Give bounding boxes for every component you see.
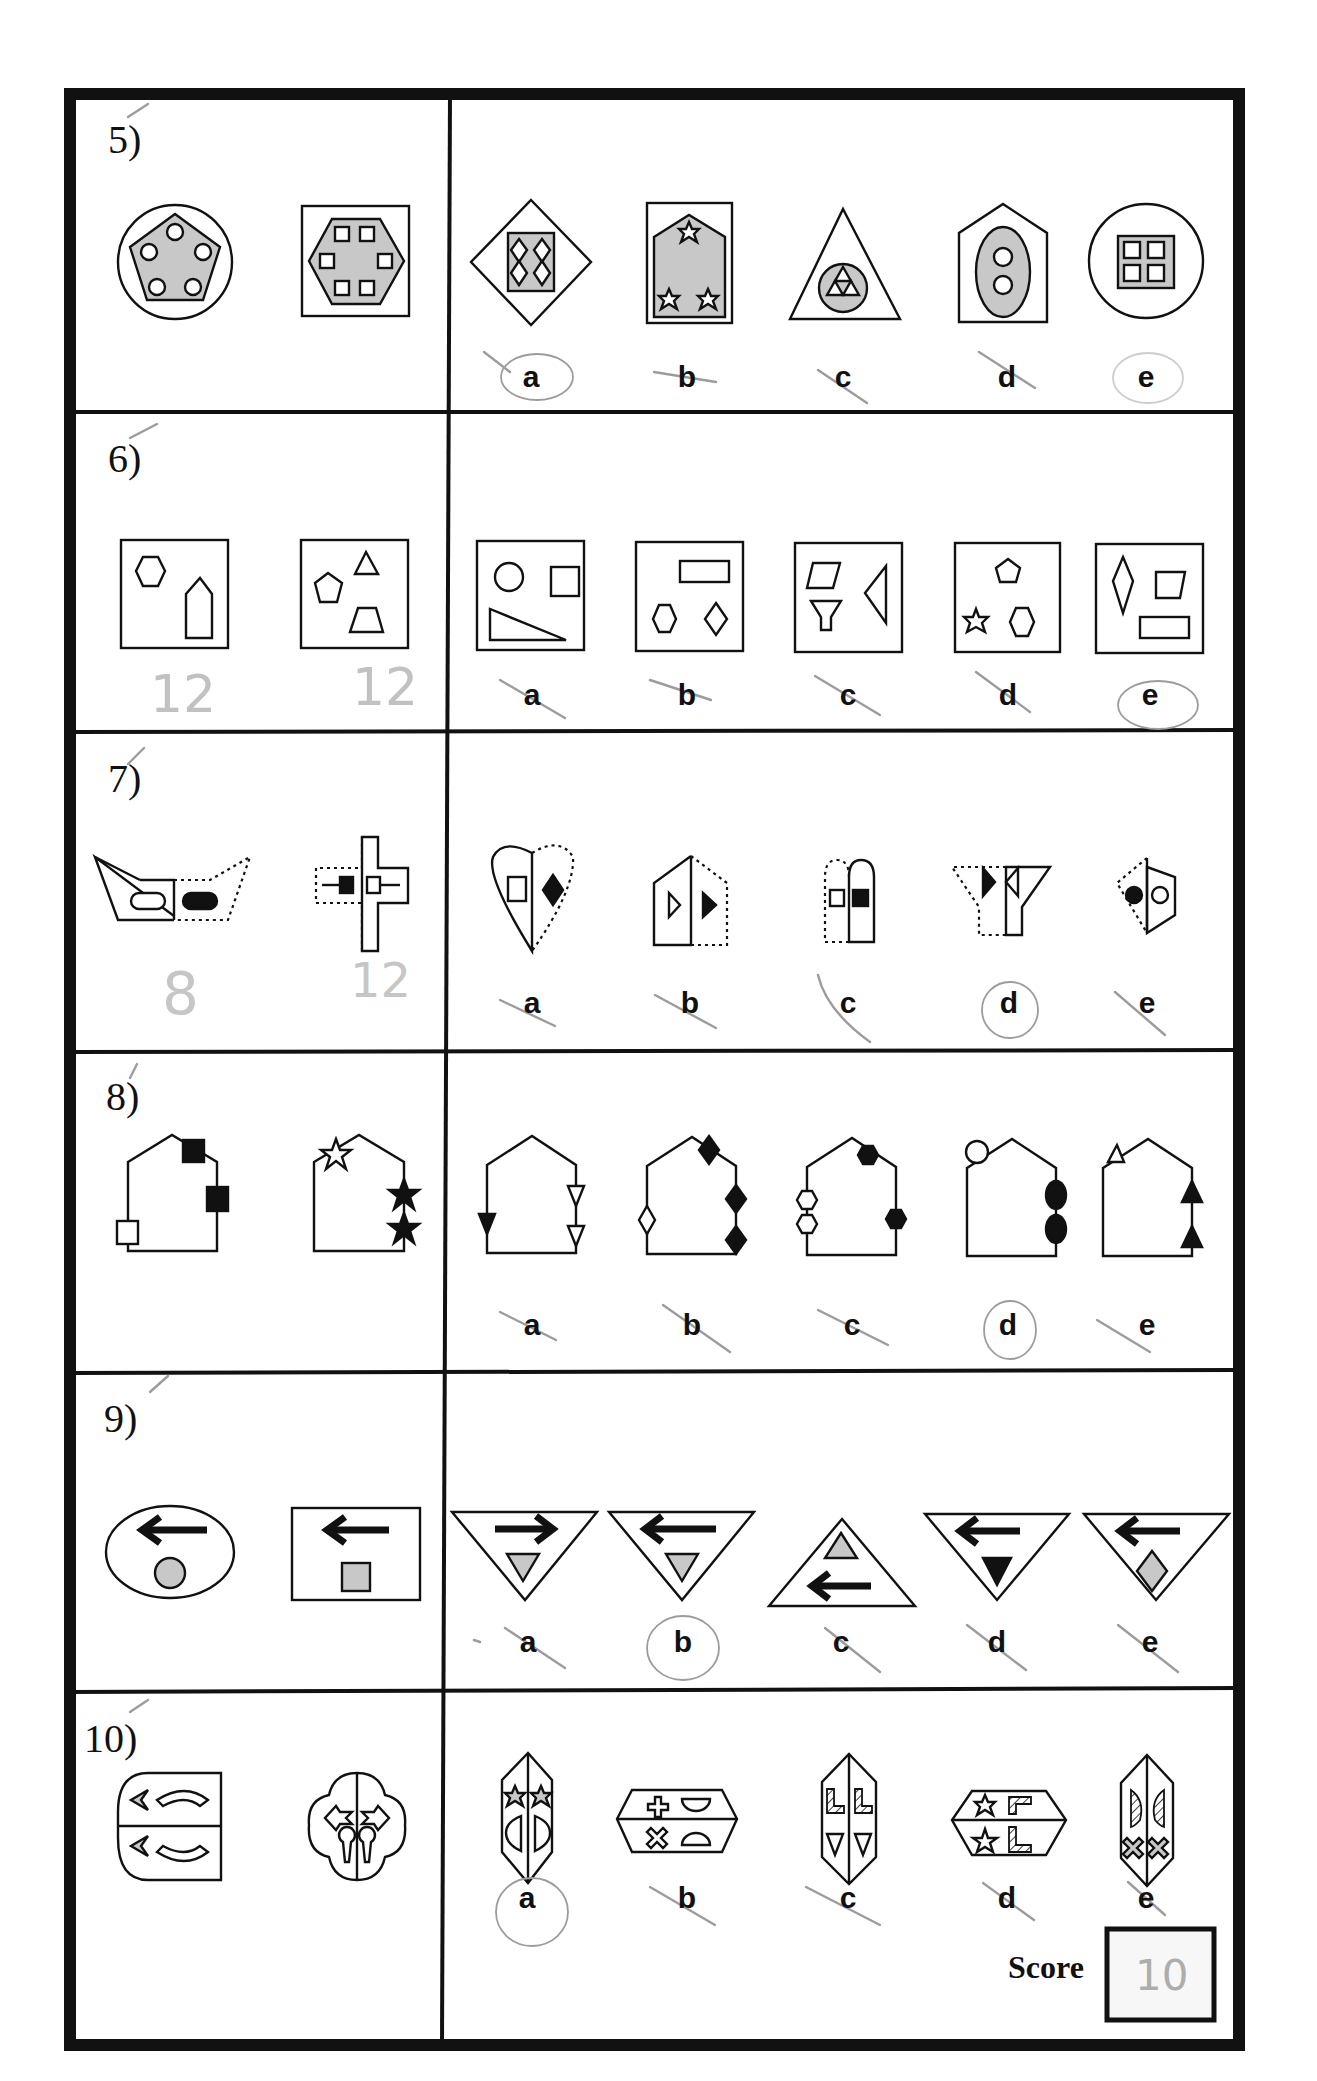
- option-e[interactable]: e: [1084, 1514, 1229, 1672]
- question-number: 6): [108, 436, 141, 481]
- option-b[interactable]: b: [639, 1136, 746, 1352]
- option-c[interactable]: c: [769, 1519, 915, 1672]
- example-figure-2: [309, 1773, 405, 1880]
- option-e[interactable]: e: [1089, 204, 1203, 403]
- option-e[interactable]: e: [1096, 544, 1203, 729]
- option-d[interactable]: d: [955, 543, 1060, 712]
- example-figure-1: [95, 857, 250, 920]
- question-number: 8): [106, 1074, 139, 1119]
- option-e[interactable]: e: [1121, 1755, 1173, 1915]
- option-letter: c: [833, 1625, 850, 1658]
- option-letter: b: [674, 1625, 692, 1658]
- example-figure-2: [302, 206, 409, 316]
- example-figure-1: [106, 1506, 234, 1598]
- option-b[interactable]: b: [636, 542, 743, 711]
- question-number: 10): [84, 1716, 137, 1761]
- question-number: 9): [104, 1396, 137, 1441]
- question-10: 10) a: [84, 1700, 1214, 2020]
- option-c[interactable]: c: [797, 1138, 906, 1345]
- option-letter: a: [524, 986, 541, 1019]
- score-area: Score 10: [1008, 1929, 1214, 2020]
- option-d[interactable]: d: [966, 1139, 1066, 1359]
- example-figure-1: [121, 540, 228, 648]
- example-figure-2: [314, 1135, 419, 1251]
- option-b[interactable]: b: [654, 856, 727, 1028]
- option-letter: e: [1142, 1625, 1159, 1658]
- worksheet: 5): [0, 0, 1317, 2081]
- option-d[interactable]: d: [925, 1514, 1069, 1670]
- option-letter: b: [678, 1881, 696, 1914]
- option-letter: d: [1000, 986, 1018, 1019]
- option-letter: a: [524, 1308, 541, 1341]
- question-number: 7): [108, 756, 141, 801]
- option-letter: b: [683, 1308, 701, 1341]
- option-letter: c: [835, 360, 852, 393]
- option-d[interactable]: d: [952, 1791, 1066, 1920]
- score-value: 10: [1135, 1951, 1188, 2000]
- option-c[interactable]: c: [795, 543, 902, 715]
- question-7: 7) 8 12 a: [95, 748, 1175, 1042]
- question-number: 5): [108, 117, 141, 162]
- option-letter: d: [999, 1308, 1017, 1341]
- hand-note: 12: [350, 952, 411, 1008]
- example-figure-2: [316, 837, 408, 951]
- option-letter: b: [678, 360, 696, 393]
- option-letter: c: [844, 1308, 861, 1341]
- option-a[interactable]: a: [452, 1512, 597, 1668]
- option-b[interactable]: b: [647, 203, 732, 393]
- question-8: 8) a b: [106, 1064, 1202, 1359]
- option-letter: c: [840, 1881, 857, 1914]
- option-letter: e: [1142, 678, 1159, 711]
- option-d[interactable]: d: [959, 204, 1047, 393]
- option-letter: d: [998, 1881, 1016, 1914]
- option-letter: e: [1138, 1881, 1155, 1914]
- option-a[interactable]: a: [479, 1136, 584, 1341]
- option-a[interactable]: a: [471, 200, 591, 400]
- option-letter: b: [681, 986, 699, 1019]
- worksheet-frame: [70, 94, 1239, 2045]
- option-e[interactable]: e: [1115, 858, 1175, 1035]
- option-letter: a: [520, 1625, 537, 1658]
- question-5: 5): [108, 104, 1203, 403]
- option-e[interactable]: e: [1097, 1139, 1202, 1352]
- option-b[interactable]: b: [617, 1790, 737, 1925]
- option-letter: e: [1138, 360, 1155, 393]
- option-letter: b: [678, 678, 696, 711]
- hand-note: 8: [162, 960, 199, 1028]
- option-c[interactable]: c: [818, 860, 874, 1042]
- example-figure-1: [118, 205, 232, 319]
- example-figure-2: [301, 540, 408, 648]
- hand-note: 12: [150, 664, 216, 724]
- option-letter: d: [988, 1625, 1006, 1658]
- option-letter: e: [1139, 986, 1156, 1019]
- example-figure-1: [118, 1773, 221, 1880]
- option-letter: e: [1139, 1308, 1156, 1341]
- option-letter: a: [519, 1881, 536, 1914]
- question-9: 9) a b: [104, 1376, 1229, 1680]
- option-d[interactable]: d: [952, 867, 1050, 1038]
- option-c[interactable]: c: [806, 1754, 880, 1925]
- option-letter: a: [523, 360, 540, 393]
- option-letter: a: [524, 678, 541, 711]
- check-mark: [128, 104, 148, 117]
- score-label: Score: [1008, 1949, 1084, 1985]
- option-letter: c: [840, 986, 857, 1019]
- option-b[interactable]: b: [609, 1512, 754, 1680]
- option-a[interactable]: a: [492, 845, 573, 1026]
- option-a[interactable]: a: [477, 541, 584, 718]
- option-a[interactable]: a: [496, 1753, 568, 1946]
- option-letter: c: [840, 678, 857, 711]
- hand-note: 12: [352, 657, 418, 717]
- example-figure-1: [117, 1135, 228, 1251]
- option-c[interactable]: c: [790, 209, 900, 403]
- option-letter: d: [999, 678, 1017, 711]
- example-figure-2: [292, 1508, 420, 1600]
- question-6: 6) 12 12 a b: [108, 424, 1203, 729]
- option-letter: d: [998, 360, 1016, 393]
